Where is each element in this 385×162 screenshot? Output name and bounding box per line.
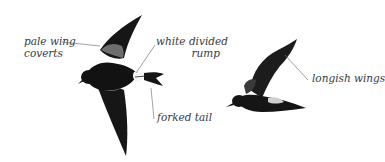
label-white-divided-rump: white divided rump <box>156 35 220 59</box>
label-line: rump <box>156 47 220 59</box>
bird-top-view-icon <box>78 15 164 156</box>
label-line: forked tail <box>157 111 212 123</box>
bird-side-view-icon <box>226 39 306 112</box>
label-pale-wing-coverts: pale wing coverts <box>24 35 76 59</box>
label-longish-wings: longish wings <box>312 72 385 84</box>
leader-line-white-divided-rump <box>136 45 155 73</box>
label-line: coverts <box>24 47 76 59</box>
leader-line-forked-tail <box>151 88 154 119</box>
leader-line-longish-wings <box>285 55 308 80</box>
label-line: white divided <box>156 35 220 47</box>
label-line: longish wings <box>312 72 385 84</box>
label-forked-tail: forked tail <box>157 111 212 123</box>
label-line: pale wing <box>24 35 76 47</box>
